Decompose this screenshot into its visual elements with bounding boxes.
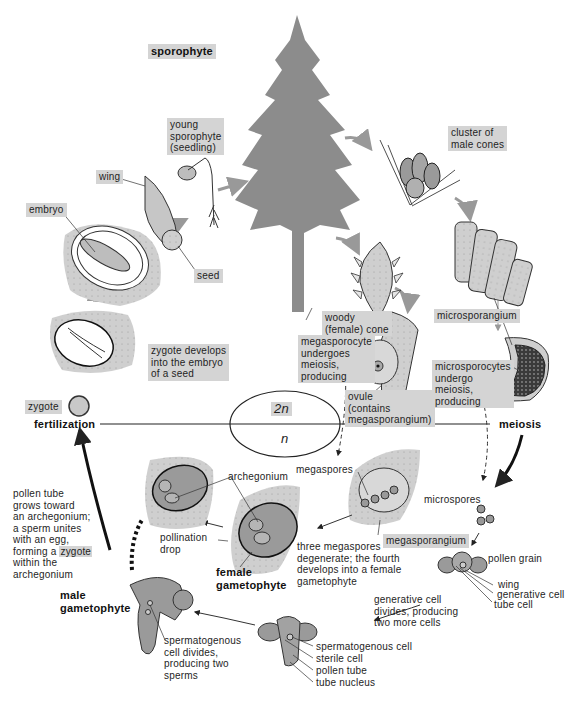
microsporangia-icon [455, 222, 533, 307]
young-sporophyte-label: young sporophyte (seedling) [167, 118, 224, 155]
zygote-cell-icon [69, 396, 89, 416]
archegonia-ovule-icon [145, 457, 214, 529]
female-cone-icon [351, 242, 403, 318]
sterile-cell-label: sterile cell [316, 653, 363, 665]
three-megaspores-label: three megaspores degenerate; the fourth … [297, 541, 401, 587]
pollen-grain-label: pollen grain [488, 553, 542, 565]
spermatogenous-divides-label: spermatogenous cell divides, producing t… [164, 635, 241, 681]
winged-seed-icon [145, 176, 182, 250]
megaspores-label: megaspores [296, 464, 353, 476]
pine-tree-icon [235, 15, 360, 312]
female-gametophyte-label: female gametophyte [216, 566, 287, 592]
wing-seed-label: wing [96, 170, 123, 184]
megasporocyte-label: megasporocyte undergoes meiosis, produci… [298, 335, 375, 383]
woody-cone-label: woody (female) cone [322, 311, 392, 336]
spermatogenous-cell-label: spermatogenous cell [316, 641, 412, 653]
microsporangium-label: microsporangium [434, 309, 520, 323]
megaspores-ovule-icon [348, 449, 420, 525]
female-gametophyte-icon [229, 485, 307, 574]
germinating-pollen-icon [258, 616, 317, 665]
meiosis-label: meiosis [499, 418, 541, 431]
seedling-icon [178, 158, 219, 228]
tube-cell-label: tube cell [494, 599, 533, 611]
archegonium-label: archegonium [228, 471, 288, 483]
haploid-label: n [281, 433, 288, 445]
male-gametophyte-label: male gametophyte [60, 589, 131, 615]
microsporocytes-label: microsporocytes undergo meiosis, produci… [432, 360, 514, 408]
zygote-develops-label: zygote develops into the embryo of a see… [148, 344, 229, 381]
seed-label: seed [194, 269, 223, 283]
zygote-label: zygote [25, 400, 62, 414]
pollen-tube-label: pollen tube [316, 665, 367, 677]
male-cones-label: cluster of male cones [448, 126, 507, 151]
generative-divides-label: generative cell divides, producing two m… [374, 594, 458, 629]
seed-embryo-icon [61, 214, 161, 306]
tube-nucleus-label: tube nucleus [316, 677, 375, 689]
diploid-label: 2n [271, 402, 292, 416]
zygote-highlight: zygote [59, 546, 92, 557]
fertilization-label: fertilization [34, 418, 95, 431]
ovule-embryo-icon [48, 311, 135, 374]
microspores-icon [477, 505, 494, 525]
sporophyte-label: sporophyte [148, 44, 216, 59]
pollination-drop-label: pollination drop [160, 532, 207, 555]
ovule-label: ovule (contains megasporangium) [345, 390, 435, 427]
pollen-tube-description: pollen tube grows toward an archegonium;… [13, 488, 92, 580]
embryo-label: embryo [26, 203, 67, 217]
microspores-label: microspores [424, 494, 481, 506]
